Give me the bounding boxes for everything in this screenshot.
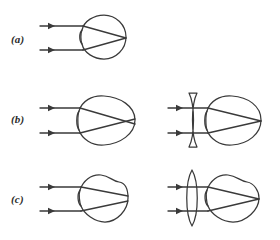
eye-refraction-figure: (a) (b) (c) bbox=[0, 0, 280, 240]
ray-arrowhead-upper-b-uncorrected bbox=[48, 105, 55, 111]
convex-lens-c bbox=[187, 170, 198, 226]
ray-arrowhead-lower-a bbox=[48, 47, 55, 53]
refracted-ray-lower-c-uncorrected bbox=[81, 201, 128, 211]
refracted-ray-lower-b-corrected bbox=[208, 121, 261, 133]
refracted-ray-upper-a bbox=[83, 26, 126, 38]
eyeball-outline-b-corrected bbox=[206, 96, 261, 145]
panel-b-uncorrected-eye-group bbox=[40, 96, 135, 145]
concave-lens-b bbox=[189, 93, 197, 147]
refracted-ray-lower-a bbox=[83, 38, 126, 50]
ray-arrowhead-lower-b-corrected bbox=[176, 130, 183, 136]
ray-arrowhead-upper-b-corrected bbox=[176, 105, 183, 111]
ray-arrowhead-upper-c-corrected bbox=[176, 184, 183, 190]
refracted-ray-lower-c-corrected bbox=[208, 199, 259, 211]
panel-c-uncorrected-eye-group bbox=[40, 175, 128, 222]
ray-arrowhead-upper-c-uncorrected bbox=[48, 184, 55, 190]
panel-a-uncorrected-eye-group bbox=[40, 15, 126, 59]
ray-arrowhead-lower-c-corrected bbox=[176, 208, 183, 214]
ray-arrowhead-lower-b-uncorrected bbox=[48, 130, 55, 136]
panel-b-corrected-eye-group bbox=[168, 93, 261, 147]
panel-c-corrected-eye-group bbox=[168, 170, 259, 226]
refracted-ray-lower-b-uncorrected bbox=[80, 119, 135, 133]
diagram-canvas bbox=[0, 0, 280, 240]
ray-arrowhead-upper-a bbox=[48, 23, 55, 29]
refracted-ray-upper-c-corrected bbox=[208, 187, 259, 199]
refracted-ray-upper-c-uncorrected bbox=[81, 187, 128, 196]
eyeball-outline-c-uncorrected bbox=[79, 175, 128, 222]
eyeball-outline-c-corrected bbox=[206, 175, 259, 222]
eyeball-outline-a bbox=[81, 15, 126, 59]
ray-arrowhead-lower-c-uncorrected bbox=[48, 208, 55, 214]
refracted-ray-upper-b-corrected bbox=[208, 108, 261, 121]
